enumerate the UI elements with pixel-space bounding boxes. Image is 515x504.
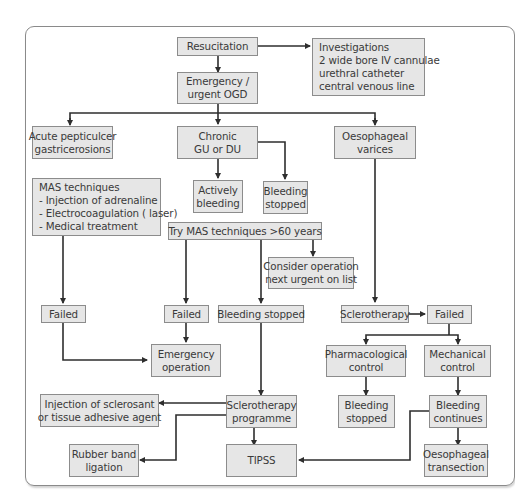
node-text: Emergency (158, 348, 215, 361)
node-text: Pharmacological (325, 348, 408, 361)
node-text: urgent OGD (188, 88, 248, 101)
node-investigations: Investigations 2 wide bore IV cannulae u… (312, 38, 425, 96)
node-actively-bleeding: Actively bleeding (193, 180, 243, 213)
node-text: Investigations (319, 41, 389, 54)
node-pharmacological-control: Pharmacological control (326, 345, 406, 377)
node-text: control (440, 361, 475, 374)
node-text: Failed (435, 308, 464, 321)
node-text: Bleeding stopped (217, 308, 305, 321)
node-failed-3: Failed (427, 305, 472, 324)
node-failed-2: Failed (164, 305, 209, 323)
node-sclerotherapy-programme: Sclerotherapy programme (226, 395, 297, 428)
node-text: varices (357, 143, 393, 156)
node-text: continues (434, 412, 483, 425)
node-text: - Medical treatment (39, 220, 138, 233)
node-chronic-gu-du: Chronic GU or DU (177, 126, 258, 159)
node-text: Consider operation (263, 260, 358, 273)
node-oesophageal-varices: Oesophageal varices (334, 126, 416, 159)
node-text: Resucitation (187, 40, 249, 53)
node-tipss: TIPSS (226, 444, 297, 477)
node-text: - Electrocoagulation ( laser) (39, 207, 177, 220)
node-rubber-band-ligation: Rubber band ligation (69, 444, 139, 477)
node-emergency-ogd: Emergency / urgent OGD (177, 72, 258, 104)
node-text: Try MAS techniques >60 years (168, 225, 321, 238)
node-acute-peptic: Acute pepticulcer gastricerosions (32, 126, 113, 159)
node-text: Oesophageal (423, 448, 489, 461)
node-consider-operation: Consider operation next urgent on list (268, 257, 354, 289)
node-text: transection (428, 461, 485, 474)
node-text: - Injection of adrenaline (39, 194, 157, 207)
node-mas-techniques: MAS techniques - Injection of adrenaline… (32, 178, 161, 236)
node-text: Emergency / (186, 75, 249, 88)
node-text: Mechanical (429, 348, 485, 361)
node-emergency-operation: Emergency operation (151, 344, 221, 377)
node-text: 2 wide bore IV cannulae (319, 54, 440, 67)
node-text: GU or DU (194, 143, 241, 156)
node-text: central venous line (319, 80, 414, 93)
node-injection-sclerosant: Injection of sclerosant or tissue adhesi… (40, 394, 159, 427)
node-resuscitation: Resucitation (177, 37, 258, 56)
node-text: stopped (265, 198, 306, 211)
node-text: programme (232, 412, 291, 425)
node-text: Injection of sclerosant (45, 398, 155, 411)
node-bleeding-stopped-3: Bleeding stopped (338, 395, 395, 428)
node-text: or tissue adhesive agent (38, 411, 161, 424)
node-bleeding-stopped-2: Bleeding stopped (218, 305, 304, 323)
node-text: TIPSS (248, 454, 276, 467)
node-text: gastricerosions (35, 143, 111, 156)
node-text: next urgent on list (265, 273, 357, 286)
node-text: MAS techniques (39, 181, 119, 194)
node-text: Sclerotherapy (340, 308, 410, 321)
node-text: Bleeding (345, 399, 389, 412)
node-sclerotherapy: Sclerotherapy (341, 305, 409, 323)
node-text: Chronic (198, 130, 236, 143)
node-text: Bleeding (264, 185, 308, 198)
node-text: ligation (85, 461, 122, 474)
node-oesophageal-transection: Oesophageal transection (424, 444, 488, 477)
node-text: Oesophageal (342, 130, 408, 143)
node-mechanical-control: Mechanical control (424, 345, 491, 377)
node-text: urethral catheter (319, 67, 404, 80)
node-failed-1: Failed (41, 305, 86, 323)
node-text: Rubber band (72, 448, 136, 461)
node-text: stopped (346, 412, 387, 425)
node-bleeding-stopped-1: Bleeding stopped (263, 181, 308, 214)
node-text: Actively (198, 184, 238, 197)
node-text: Failed (49, 308, 78, 321)
node-text: Bleeding (436, 399, 480, 412)
node-text: Failed (172, 308, 201, 321)
node-try-mas: Try MAS techniques >60 years (168, 222, 322, 240)
node-bleeding-continues: Bleeding continues (429, 395, 487, 428)
node-text: Acute pepticulcer (29, 130, 117, 143)
node-text: Sclerotherapy (227, 399, 297, 412)
node-text: bleeding (196, 197, 239, 210)
node-text: control (349, 361, 384, 374)
node-text: operation (162, 361, 210, 374)
